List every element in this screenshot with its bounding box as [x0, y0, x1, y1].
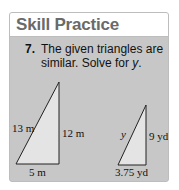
- large-hypotenuse-label: 13 m: [12, 122, 35, 134]
- triangle-large: 13 m 12 m 5 m: [12, 82, 85, 178]
- skill-practice-card: Skill Practice 7. The given triangles ar…: [9, 12, 169, 182]
- triangle-small: y 9 yd 3.75 yd: [115, 105, 169, 178]
- large-base-label: 5 m: [29, 166, 46, 178]
- similar-triangles-figure: 13 m 12 m 5 m y 9 yd 3.75 yd: [10, 13, 169, 182]
- large-vertical-label: 12 m: [62, 127, 85, 139]
- small-hypotenuse-label: y: [120, 128, 126, 140]
- small-vertical-label: 9 yd: [149, 130, 169, 142]
- small-base-label: 3.75 yd: [115, 166, 149, 178]
